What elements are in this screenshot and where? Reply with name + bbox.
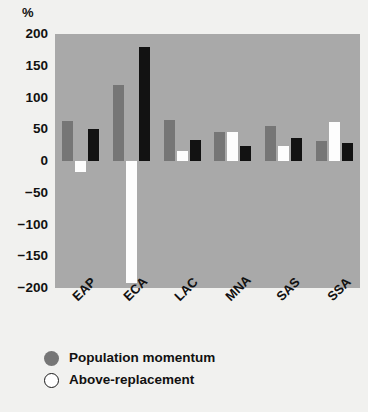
bar-ssa-series-1 [329,122,340,161]
chart-legend: Population momentumAbove-replacement [44,350,368,394]
bar-mna-series-1 [227,132,238,161]
bar-groups [55,34,360,288]
legend-item-above-replacement[interactable]: Above-replacement [44,372,368,388]
bar-eca-series-0 [113,85,124,161]
bar-group-ssa [309,34,360,288]
y-axis-tick-label: −100 [18,218,48,232]
grouped-bar-chart: % 200150100500−50−100−150−200 EAPECALACM… [0,0,368,412]
y-axis-tick-label: −150 [18,250,48,264]
bar-lac-series-1 [177,151,188,161]
bar-eca-series-2 [139,47,150,161]
y-axis: 200150100500−50−100−150−200 [0,34,52,288]
bar-ssa-series-0 [316,141,327,161]
bar-sas-series-1 [278,146,289,161]
bar-mna-series-2 [240,146,251,161]
bar-sas-series-2 [291,138,302,161]
y-axis-unit-label: % [22,6,34,19]
legend-item-label: Population momentum [69,350,215,366]
bar-mna-series-0 [214,132,225,161]
bar-group-eca [106,34,157,288]
bar-group-lac [157,34,208,288]
y-axis-tick-label: 100 [25,91,48,105]
legend-item-label: Above-replacement [69,372,194,388]
y-axis-tick-label: −200 [18,281,48,295]
bar-eca-series-1 [126,161,137,283]
legend-item-population-momentum[interactable]: Population momentum [44,350,368,366]
bar-lac-series-0 [164,120,175,161]
y-axis-tick-label: 150 [25,59,48,73]
bar-sas-series-0 [265,126,276,161]
bar-eap-series-0 [62,121,73,161]
bar-group-mna [208,34,259,288]
bar-group-sas [258,34,309,288]
filled-circle-icon [44,351,59,366]
bar-group-eap [55,34,106,288]
x-axis: EAPECALACMNASASSSA [55,288,360,340]
bar-eap-series-2 [88,129,99,161]
bar-eap-series-1 [75,161,86,172]
y-axis-tick-label: 50 [33,123,48,137]
open-circle-icon [44,373,59,388]
bar-lac-series-2 [190,140,201,161]
y-axis-tick-label: 0 [40,154,48,168]
bar-ssa-series-2 [342,143,353,161]
y-axis-tick-label: −50 [25,186,48,200]
y-axis-tick-label: 200 [25,27,48,41]
